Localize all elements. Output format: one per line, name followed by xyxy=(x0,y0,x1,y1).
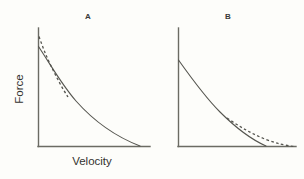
panel-title-a: A xyxy=(68,12,108,21)
plot-canvas xyxy=(0,0,304,179)
panel-b xyxy=(178,28,296,147)
force-velocity-figure: A B Velocity Force xyxy=(0,0,304,179)
x-axis-label: Velocity xyxy=(52,155,132,167)
y-axis-label: Force xyxy=(13,61,25,117)
panel-b-dashed-curve xyxy=(227,118,295,147)
panel-a xyxy=(38,28,150,147)
panel-a-solid-curve xyxy=(39,47,141,147)
panel-title-b: B xyxy=(208,12,248,21)
panel-a-dashed-curve xyxy=(39,37,68,98)
